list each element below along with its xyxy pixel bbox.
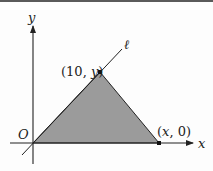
- coordinate-diagram: y x O ℓ (10, y) (x, 0): [0, 0, 213, 171]
- apex-label: (10, y): [61, 64, 103, 79]
- base-right-y: 0: [178, 124, 186, 139]
- base-right-point: [157, 141, 161, 145]
- apex-x: 10: [66, 64, 83, 79]
- line-l-label: ℓ: [124, 37, 130, 52]
- apex-y: y: [90, 64, 99, 79]
- base-right-label: (x, 0): [157, 124, 191, 139]
- base-right-x: x: [162, 124, 170, 139]
- shaded-triangle: [33, 72, 159, 143]
- x-axis-label: x: [198, 136, 206, 151]
- y-axis-label: y: [27, 10, 36, 25]
- origin-label: O: [18, 127, 29, 142]
